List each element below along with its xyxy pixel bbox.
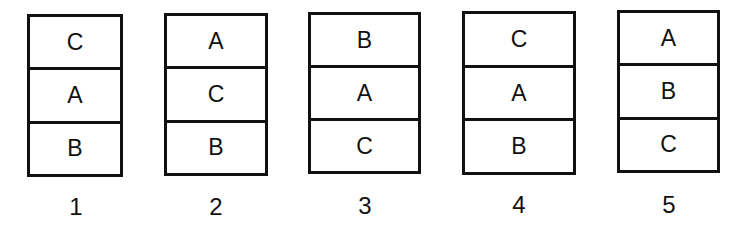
stack-1-cell-top: C [30,17,120,67]
stack-5-cell-top: A [620,13,717,63]
stack-3: B A C [308,12,421,174]
stack-1-cell-bottom: B [30,121,120,174]
stack-3-cell-middle: A [311,65,418,118]
stack-3-cell-top: B [311,15,418,65]
stack-2-cell-bottom: B [167,120,265,173]
stack-5-cell-bottom: C [620,117,717,170]
stack-4-cell-top: C [465,14,573,65]
stack-1: C A B [27,14,123,177]
stack-2: A C B [164,13,268,176]
stack-2-cell-middle: C [167,66,265,119]
stack-2-number: 2 [196,193,236,221]
stack-2-cell-top: A [167,16,265,66]
stack-5-cell-middle: B [620,63,717,116]
stack-1-number: 1 [56,193,96,221]
stack-4-number: 4 [499,191,539,219]
stack-3-number: 3 [345,192,385,220]
stack-1-cell-middle: A [30,67,120,120]
stack-4-cell-bottom: B [465,118,573,172]
stack-5: A B C [617,10,720,173]
stack-3-cell-bottom: C [311,118,418,171]
stack-4-cell-middle: A [465,65,573,119]
stack-4: C A B [462,11,576,175]
stack-5-number: 5 [649,191,689,219]
